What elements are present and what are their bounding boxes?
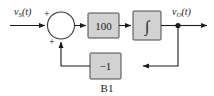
diagram-canvas: 100 ∫ −1 vS(t) vO(t) + + B1 <box>0 0 214 96</box>
summing-junction <box>48 12 75 39</box>
output-signal-label: vO(t) <box>172 6 192 19</box>
sum-input-sign-bottom: + <box>49 36 55 47</box>
feedback-gain-block-label: −1 <box>100 60 112 72</box>
output-signal-arg: (t) <box>182 6 192 18</box>
feedback-wire-left <box>61 42 90 66</box>
input-signal-arg: (t) <box>22 6 32 18</box>
block-diagram-figure: 100 ∫ −1 vS(t) vO(t) + + B1 <box>0 0 214 96</box>
sum-input-sign-top: + <box>44 8 50 19</box>
figure-caption: B1 <box>101 82 114 94</box>
gain-block-label: 100 <box>95 20 112 32</box>
input-signal-label: vS(t) <box>14 6 32 19</box>
